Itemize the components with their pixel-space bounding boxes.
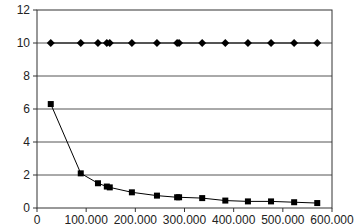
square-marker (78, 170, 84, 176)
square-marker (222, 198, 228, 204)
y-tick-label: 0 (23, 201, 30, 215)
x-tick-label: 200,000 (114, 213, 158, 224)
diamond-marker (128, 39, 136, 47)
y-tick-label: 4 (23, 135, 30, 149)
square-marker (314, 200, 320, 206)
square-marker (107, 184, 113, 190)
series-diamonds (47, 39, 321, 47)
square-marker (245, 198, 251, 204)
diamond-marker (313, 39, 321, 47)
y-tick-label: 2 (23, 168, 30, 182)
x-tick-label: 100,000 (64, 213, 108, 224)
diamond-marker (267, 39, 275, 47)
series-squares (48, 101, 320, 206)
diamond-marker (198, 39, 206, 47)
x-tick-label: 500,000 (261, 213, 305, 224)
x-tick-label: 0 (34, 213, 41, 224)
y-tick-label: 10 (17, 36, 31, 50)
square-marker (129, 189, 135, 195)
diamond-marker (47, 39, 55, 47)
y-tick-label: 6 (23, 102, 30, 116)
x-tick-label: 600,000 (310, 213, 354, 224)
data-series (47, 39, 321, 206)
square-marker (95, 180, 101, 186)
diamond-marker (153, 39, 161, 47)
x-axis: 0100,000200,000300,000400,000500,000600,… (34, 208, 354, 224)
x-tick-label: 300,000 (163, 213, 207, 224)
square-marker (199, 195, 205, 201)
gridlines (37, 43, 332, 175)
square-marker (291, 199, 297, 205)
square-marker (154, 193, 160, 199)
y-tick-label: 8 (23, 69, 30, 83)
x-tick-label: 400,000 (212, 213, 256, 224)
line-chart: 024681012 0100,000200,000300,000400,0005… (0, 0, 361, 224)
y-tick-label: 12 (17, 3, 31, 17)
diamond-marker (94, 39, 102, 47)
square-marker (268, 198, 274, 204)
diamond-marker (77, 39, 85, 47)
y-axis: 024681012 (17, 3, 37, 215)
diamond-marker (244, 39, 252, 47)
diamond-marker (290, 39, 298, 47)
square-marker (48, 101, 54, 107)
square-marker (176, 194, 182, 200)
diamond-marker (221, 39, 229, 47)
